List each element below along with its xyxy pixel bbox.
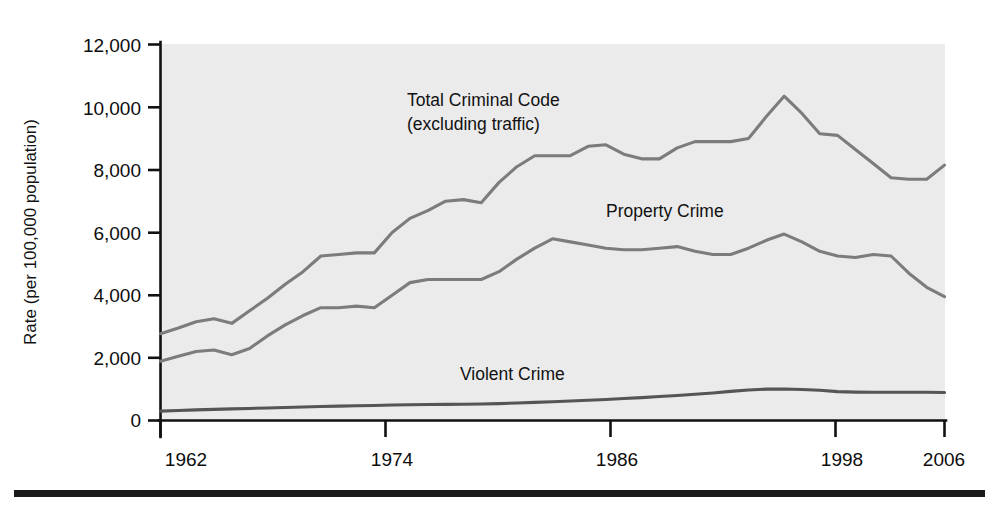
y-tick-label-8000: 8,000 (93, 160, 141, 181)
x-tick-label-1962: 1962 (165, 449, 207, 470)
y-tick-label-0: 0 (130, 410, 141, 431)
annotation-total-criminal-code-line1: Total Criminal Code (407, 90, 560, 110)
y-tick-label-10000: 10,000 (83, 98, 141, 119)
y-tick-label-4000: 4,000 (93, 285, 141, 306)
y-tick-label-12000: 12,000 (83, 35, 141, 56)
x-tick-label-1998: 1998 (821, 449, 863, 470)
annotation-total-criminal-code-line2: (excluding traffic) (407, 114, 540, 134)
annotation-violent-crime: Violent Crime (460, 364, 565, 384)
y-tick-marks (148, 45, 161, 421)
x-tick-marks (161, 420, 945, 437)
y-axis-title: Rate (per 100,000 population) (21, 119, 40, 345)
x-tick-label-2006: 2006 (923, 449, 965, 470)
line-chart: 0 2,000 4,000 6,000 8,000 10,000 12,000 … (0, 0, 989, 508)
chart-figure: 0 2,000 4,000 6,000 8,000 10,000 12,000 … (0, 0, 989, 508)
x-tick-label-1974: 1974 (371, 449, 414, 470)
x-tick-label-1986: 1986 (596, 449, 638, 470)
y-tick-label-2000: 2,000 (93, 348, 141, 369)
y-tick-label-6000: 6,000 (93, 223, 141, 244)
annotation-property-crime: Property Crime (606, 201, 724, 221)
bottom-divider-rule (14, 490, 985, 497)
